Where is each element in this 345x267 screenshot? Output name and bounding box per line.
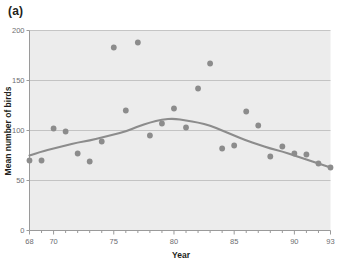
data-point [183,125,189,131]
data-point [304,152,310,158]
x-axis-ticks [30,231,331,235]
data-point [219,146,225,152]
data-point [267,154,273,160]
data-point [171,106,177,112]
data-point [243,109,249,115]
y-tick-label: 0 [20,226,24,235]
data-point [279,144,285,150]
data-point [39,158,45,164]
x-tick-label: 90 [290,237,298,246]
data-point [135,40,141,46]
y-tick-label: 50 [16,176,24,185]
x-tick-label: 70 [49,237,57,246]
data-point [231,143,237,149]
x-tick-label: 80 [170,237,178,246]
data-point [159,121,165,127]
x-tick-label: 68 [25,237,33,246]
data-point [51,126,57,132]
data-point [63,129,69,135]
data-point [87,159,93,165]
data-point [75,151,81,157]
x-axis-title: Year [172,250,191,260]
x-axis-tick-labels: 68707580859093 [25,237,334,246]
x-tick-label: 75 [110,237,118,246]
data-point [328,165,334,171]
data-point [99,139,105,145]
x-tick-label: 85 [230,237,238,246]
data-point [195,86,201,92]
data-point [123,108,129,114]
y-axis-title: Mean number of birds [3,86,13,175]
y-tick-label: 100 [12,126,25,135]
y-tick-label: 150 [12,76,25,85]
data-point [207,61,213,67]
data-point [316,161,322,167]
data-point [255,123,261,129]
data-point [111,45,117,51]
data-point [27,158,33,164]
bird-count-chart: (a) 68707580859093 050100150200 Year Mea… [0,0,345,267]
y-axis-tick-labels: 050100150200 [12,26,25,235]
x-tick-label: 93 [326,237,334,246]
scatter-plot: 68707580859093 050100150200 Year Mean nu… [0,0,345,267]
data-point [147,133,153,139]
data-point [291,151,297,157]
y-tick-label: 200 [12,26,25,35]
